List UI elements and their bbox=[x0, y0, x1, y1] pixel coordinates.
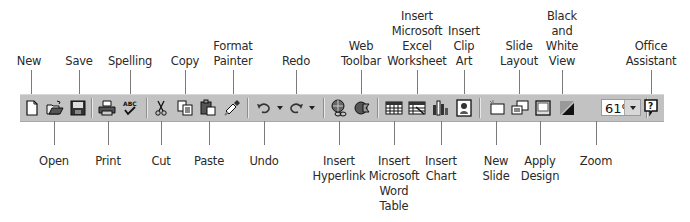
undo-button[interactable] bbox=[254, 98, 274, 118]
globe-link-icon bbox=[330, 99, 348, 117]
leader-insert-excel-worksheet bbox=[417, 70, 418, 94]
spelling-button[interactable]: ABC bbox=[120, 98, 140, 118]
apply-design-button[interactable] bbox=[533, 98, 553, 118]
redo-icon bbox=[287, 99, 305, 117]
label-black-and-white-view: Black and White View bbox=[546, 9, 578, 69]
new-slide-button[interactable] bbox=[487, 98, 507, 118]
separator bbox=[146, 98, 148, 118]
slide-layout-button[interactable] bbox=[510, 98, 530, 118]
insert-clip-art-button[interactable] bbox=[454, 98, 474, 118]
scissors-icon bbox=[152, 99, 170, 117]
label-office-assistant: Office Assistant bbox=[626, 39, 677, 69]
leader-slide-layout bbox=[519, 70, 520, 94]
floppy-disk-icon bbox=[69, 99, 87, 117]
insert-excel-worksheet-button[interactable] bbox=[407, 98, 427, 118]
insert-hyperlink-button[interactable] bbox=[329, 98, 349, 118]
redo-dropdown-arrow[interactable] bbox=[309, 106, 315, 110]
label-save: Save bbox=[65, 54, 92, 69]
label-insert-excel-worksheet: Insert Microsoft Excel Worksheet bbox=[387, 9, 446, 69]
web-globe-arrow-icon bbox=[353, 99, 371, 117]
worksheet-icon bbox=[408, 99, 426, 117]
insert-word-table-button[interactable] bbox=[384, 98, 404, 118]
cut-button[interactable] bbox=[151, 98, 171, 118]
label-zoom: Zoom bbox=[580, 154, 612, 169]
label-redo: Redo bbox=[282, 54, 310, 69]
copy-icon bbox=[176, 99, 194, 117]
black-and-white-icon bbox=[558, 99, 576, 117]
label-insert-word-table: Insert Microsoft Word Table bbox=[369, 154, 420, 214]
label-insert-hyperlink: Insert Hyperlink bbox=[312, 154, 365, 184]
leader-office-assistant bbox=[651, 70, 652, 94]
leader-insert-word-table bbox=[394, 121, 395, 145]
label-insert-clip-art: Insert Clip Art bbox=[448, 24, 480, 69]
undo-dropdown-arrow[interactable] bbox=[277, 106, 283, 110]
label-copy: Copy bbox=[171, 54, 199, 69]
leader-insert-clip-art bbox=[464, 70, 465, 94]
copy-button[interactable] bbox=[175, 98, 195, 118]
slide-layout-icon bbox=[511, 99, 529, 117]
label-new-slide: New Slide bbox=[482, 154, 509, 184]
label-cut: Cut bbox=[151, 154, 170, 169]
label-paste: Paste bbox=[194, 154, 224, 169]
leader-format-painter bbox=[233, 70, 234, 94]
leader-spelling bbox=[130, 70, 131, 94]
clipboard-icon bbox=[199, 99, 217, 117]
spell-check-icon: ABC bbox=[121, 99, 139, 117]
format-painter-button[interactable] bbox=[222, 98, 242, 118]
printer-icon bbox=[98, 99, 116, 117]
new-document-icon bbox=[23, 99, 41, 117]
separator bbox=[323, 98, 325, 118]
leader-open bbox=[54, 121, 55, 145]
label-web-toolbar: Web Toolbar bbox=[341, 39, 381, 69]
leader-web-toolbar bbox=[361, 70, 362, 94]
paintbrush-icon bbox=[223, 99, 241, 117]
web-toolbar-button[interactable] bbox=[352, 98, 372, 118]
leader-apply-design bbox=[540, 121, 541, 145]
help-balloon-icon: ? bbox=[642, 98, 660, 116]
leader-paste bbox=[209, 121, 210, 145]
bar-chart-icon bbox=[431, 99, 449, 117]
label-slide-layout: Slide Layout bbox=[500, 39, 538, 69]
leader-print bbox=[108, 121, 109, 145]
separator bbox=[91, 98, 93, 118]
svg-text:ABC: ABC bbox=[123, 100, 137, 107]
leader-insert-chart bbox=[441, 121, 442, 145]
open-button[interactable] bbox=[45, 98, 65, 118]
clip-art-icon bbox=[455, 99, 473, 117]
leader-redo bbox=[296, 70, 297, 94]
new-button[interactable] bbox=[22, 98, 42, 118]
label-undo: Undo bbox=[249, 154, 278, 169]
label-insert-chart: Insert Chart bbox=[425, 154, 457, 184]
office-assistant-button[interactable]: ? bbox=[641, 97, 661, 117]
black-and-white-view-button[interactable] bbox=[557, 98, 577, 118]
redo-button[interactable] bbox=[286, 98, 306, 118]
leader-save bbox=[79, 70, 80, 94]
separator bbox=[479, 98, 481, 118]
print-button[interactable] bbox=[97, 98, 117, 118]
label-open: Open bbox=[39, 154, 69, 169]
standard-toolbar: ABC bbox=[20, 94, 664, 122]
label-new: New bbox=[17, 54, 41, 69]
paste-button[interactable] bbox=[198, 98, 218, 118]
label-apply-design: Apply Design bbox=[521, 154, 560, 184]
save-button[interactable] bbox=[68, 98, 88, 118]
leader-undo bbox=[264, 121, 265, 145]
apply-design-icon bbox=[534, 99, 552, 117]
leader-cut bbox=[161, 121, 162, 145]
leader-new bbox=[31, 70, 32, 94]
separator bbox=[247, 98, 249, 118]
label-spelling: Spelling bbox=[108, 54, 152, 69]
table-icon bbox=[385, 99, 403, 117]
insert-chart-button[interactable] bbox=[430, 98, 450, 118]
new-slide-icon bbox=[488, 99, 506, 117]
label-format-painter: Format Painter bbox=[213, 39, 252, 69]
svg-text:?: ? bbox=[648, 101, 653, 111]
leader-black-and-white-view bbox=[562, 70, 563, 94]
zoom-dropdown-arrow[interactable] bbox=[624, 100, 640, 115]
leader-copy bbox=[185, 70, 186, 94]
open-folder-icon bbox=[46, 99, 64, 117]
separator bbox=[377, 98, 379, 118]
leader-new-slide bbox=[496, 121, 497, 145]
leader-insert-hyperlink bbox=[339, 121, 340, 145]
label-print: Print bbox=[95, 154, 120, 169]
